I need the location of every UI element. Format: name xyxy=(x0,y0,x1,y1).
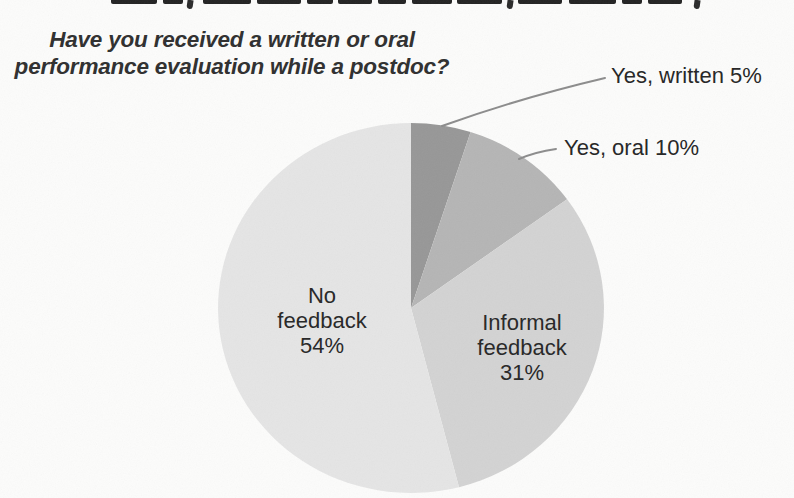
slice-label-line: 54% xyxy=(237,333,407,358)
leader-line-yes-written xyxy=(442,78,605,126)
scanned-pie-chart-figure: Have you received a written or oral perf… xyxy=(0,0,794,498)
slice-label-line: 31% xyxy=(437,360,607,385)
slice-label-line: No xyxy=(237,283,407,308)
slice-label-no-feedback: No feedback 54% xyxy=(237,283,407,358)
callout-label-yes-written: Yes, written 5% xyxy=(611,63,762,89)
slice-label-line: feedback xyxy=(437,335,607,360)
slice-label-line: Informal xyxy=(437,310,607,335)
leader-line-yes-oral xyxy=(519,149,556,159)
callout-label-yes-oral: Yes, oral 10% xyxy=(564,135,699,161)
slice-label-informal-feedback: Informal feedback 31% xyxy=(437,310,607,385)
slice-label-line: feedback xyxy=(237,308,407,333)
